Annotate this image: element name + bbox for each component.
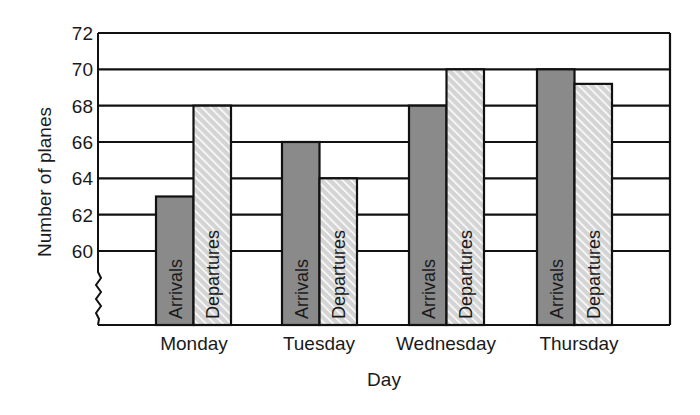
bar-label: Departures	[456, 230, 476, 319]
bar-label: Arrivals	[166, 259, 186, 319]
bar-label: Arrivals	[547, 259, 567, 319]
y-tick-label: 68	[72, 96, 93, 117]
x-category-label: Wednesday	[396, 333, 496, 354]
y-tick-label: 62	[72, 205, 93, 226]
bar-label: Arrivals	[292, 259, 312, 319]
x-category-label: Thursday	[539, 333, 619, 354]
x-category-label: Monday	[160, 333, 228, 354]
y-tick-label: 70	[72, 59, 93, 80]
bars: ArrivalsDeparturesArrivalsDeparturesArri…	[156, 69, 612, 325]
bar-chart: 60626466687072 ArrivalsDeparturesArrival…	[0, 0, 700, 415]
bar-label: Departures	[329, 230, 349, 319]
y-tick-label: 72	[72, 23, 93, 44]
x-axis-label: Day	[367, 369, 401, 390]
y-tick-label: 64	[72, 168, 94, 189]
bar-label: Departures	[584, 230, 604, 319]
x-category-label: Tuesday	[283, 333, 356, 354]
y-tick-label: 66	[72, 132, 93, 153]
x-axis-categories: MondayTuesdayWednesdayThursday	[160, 333, 619, 354]
bar-label: Departures	[203, 230, 223, 319]
y-tick-label: 60	[72, 241, 93, 262]
bar-label: Arrivals	[419, 259, 439, 319]
y-axis-ticks: 60626466687072	[72, 23, 94, 262]
y-axis-label: Number of planes	[34, 107, 55, 257]
